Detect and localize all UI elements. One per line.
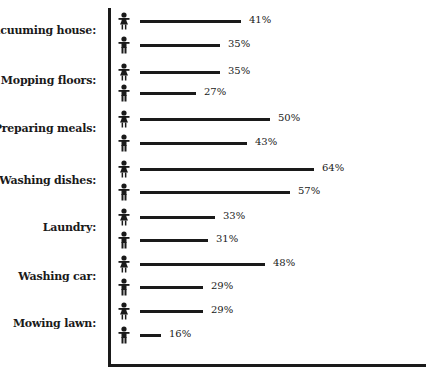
boy-icon xyxy=(118,231,130,249)
bar xyxy=(140,263,265,266)
girl-icon xyxy=(118,12,130,30)
girl-icon xyxy=(118,63,130,81)
value-label: 41% xyxy=(249,14,271,25)
bar xyxy=(140,118,270,121)
category-label: Mopping floors: xyxy=(1,74,96,87)
girl-icon xyxy=(118,302,130,320)
category-label: Preparing meals: xyxy=(0,122,96,135)
value-label: 50% xyxy=(278,112,300,123)
value-label: 16% xyxy=(169,328,191,339)
value-label: 31% xyxy=(216,233,238,244)
bar-row: 29% xyxy=(118,302,241,320)
boy-icon xyxy=(118,278,130,296)
value-label: 33% xyxy=(223,210,245,221)
boy-icon xyxy=(118,36,130,54)
bar xyxy=(140,71,220,74)
bar-row: 50% xyxy=(118,110,308,128)
value-label: 48% xyxy=(273,257,295,268)
bar xyxy=(140,239,208,242)
bar-row: 64% xyxy=(118,160,352,178)
boy-icon xyxy=(118,183,130,201)
bar xyxy=(140,216,215,219)
category-label: Washing car: xyxy=(18,270,96,283)
bar xyxy=(140,310,203,313)
value-label: 35% xyxy=(228,65,250,76)
value-label: 57% xyxy=(298,185,320,196)
bar-row: 48% xyxy=(118,255,303,273)
boy-icon xyxy=(118,326,130,344)
bar xyxy=(140,286,203,289)
category-label: Mowing lawn: xyxy=(13,317,96,330)
boy-icon xyxy=(118,84,130,102)
bar xyxy=(140,92,196,95)
girl-icon xyxy=(118,110,130,128)
bar-row: 29% xyxy=(118,278,241,296)
category-label: Washing dishes: xyxy=(0,174,96,187)
bar xyxy=(140,334,161,337)
bar xyxy=(140,168,314,171)
girl-icon xyxy=(118,208,130,226)
value-label: 29% xyxy=(211,280,233,291)
y-axis-line xyxy=(108,8,111,366)
bar-row: 27% xyxy=(118,84,234,102)
bar-row: 57% xyxy=(118,183,328,201)
girl-icon xyxy=(118,255,130,273)
bar xyxy=(140,142,247,145)
bar xyxy=(140,20,241,23)
value-label: 43% xyxy=(255,136,277,147)
bar xyxy=(140,191,290,194)
category-label: Laundry: xyxy=(43,221,96,234)
value-label: 35% xyxy=(228,38,250,49)
bar-row: 41% xyxy=(118,12,279,30)
bar-row: 35% xyxy=(118,36,258,54)
boy-icon xyxy=(118,134,130,152)
girl-icon xyxy=(118,160,130,178)
value-label: 64% xyxy=(322,162,344,173)
bar-row: 33% xyxy=(118,208,253,226)
bar xyxy=(140,44,220,47)
value-label: 29% xyxy=(211,304,233,315)
category-label: Vacuuming house: xyxy=(0,24,96,37)
chores-bar-chart: Vacuuming house:Mopping floors:Preparing… xyxy=(0,0,434,383)
bar-row: 31% xyxy=(118,231,246,249)
bar-row: 43% xyxy=(118,134,285,152)
bar-row: 35% xyxy=(118,63,258,81)
value-label: 27% xyxy=(204,86,226,97)
bar-row: 16% xyxy=(118,326,199,344)
x-axis-line xyxy=(108,364,426,367)
